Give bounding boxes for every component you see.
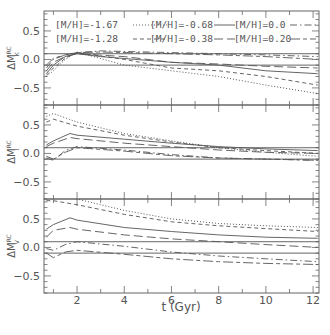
- figure: 0.50.0−0.5ΔMRCK0.50.0−0.5ΔMRCI0.50.0−0.5…: [0, 0, 330, 335]
- series-line: [46, 114, 317, 157]
- x-tick-label: 12: [306, 294, 320, 307]
- svg-text:[M/H]=-1.28: [M/H]=-1.28: [55, 33, 118, 44]
- x-tick-label: 10: [259, 294, 273, 307]
- y-tick-label: −0.5: [13, 82, 40, 95]
- y-tick-label: 0.0: [23, 241, 41, 254]
- series-line: [46, 54, 317, 74]
- y-tick-label: 0.5: [23, 119, 41, 132]
- panel-middle: 0.50.0−0.5ΔMRCI: [5, 105, 319, 199]
- series-line: [46, 54, 317, 71]
- y-axis-label: ΔMRCV: [5, 234, 20, 258]
- svg-text:ΔMRCV: ΔMRCV: [5, 234, 20, 258]
- x-axis-label: t (Gyr): [161, 300, 200, 314]
- series-line: [46, 196, 317, 227]
- svg-text:[M/H]=-1.67: [M/H]=-1.67: [55, 19, 118, 30]
- y-axis-label: ΔMRCK: [5, 46, 20, 70]
- y-tick-label: 0.0: [23, 53, 41, 66]
- legend-entry: [M/H]=-0.38: [150, 33, 235, 44]
- legend-entry: [M/H]=0.0: [234, 19, 316, 30]
- x-tick-label: 8: [215, 294, 222, 307]
- series-line: [46, 218, 317, 239]
- x-tick-label: 4: [121, 294, 128, 307]
- series-line: [46, 250, 317, 264]
- svg-text:[M/H]=-0.38: [M/H]=-0.38: [150, 33, 213, 44]
- panel-bottom: 0.50.0−0.5ΔMRCV: [5, 196, 319, 293]
- legend: [M/H]=-1.67[M/H]=-1.28[M/H]=-0.68[M/H]=-…: [55, 19, 316, 44]
- y-axis-label: ΔMRCI: [5, 140, 20, 164]
- legend-entry: [M/H]=0.20: [234, 33, 316, 44]
- y-tick-label: −0.5: [13, 270, 40, 283]
- svg-text:[M/H]=0.0: [M/H]=0.0: [234, 19, 286, 30]
- series-line: [46, 201, 317, 232]
- y-tick-label: −0.5: [13, 176, 40, 189]
- svg-text:ΔMRCK: ΔMRCK: [5, 46, 20, 70]
- y-tick-label: 0.5: [23, 213, 41, 226]
- svg-text:[M/H]=0.20: [M/H]=0.20: [234, 33, 291, 44]
- series-line: [46, 52, 317, 94]
- x-tick-label: 2: [74, 294, 81, 307]
- y-tick-label: 0.0: [23, 147, 41, 160]
- svg-text:ΔMRCI: ΔMRCI: [5, 140, 20, 164]
- series-line: [46, 242, 317, 262]
- svg-text:[M/H]=-0.68: [M/H]=-0.68: [150, 19, 213, 30]
- legend-entry: [M/H]=-0.68: [150, 19, 235, 30]
- panel-frame: [44, 199, 319, 293]
- y-tick-label: 0.5: [23, 25, 41, 38]
- panel-frame: [44, 105, 319, 199]
